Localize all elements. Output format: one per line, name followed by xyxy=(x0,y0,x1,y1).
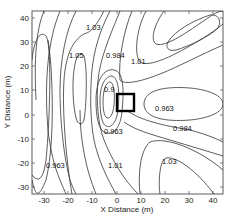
x-tick-label: 10 xyxy=(137,196,146,205)
contour-chart: 1.03 1.05 0.984 1.01 0.9 0.963 0.963 0.9… xyxy=(0,0,235,220)
x-tick-label: 20 xyxy=(161,196,170,205)
x-tick-label: 0 xyxy=(115,196,120,205)
contour-label: 0.9 xyxy=(104,85,114,94)
contour-label: 0.963 xyxy=(104,127,123,136)
contour-label: 0.963 xyxy=(155,104,174,113)
y-tick-label: 30 xyxy=(20,38,29,47)
contour-label: 0.984 xyxy=(106,51,125,60)
y-tick-label: 10 xyxy=(20,86,29,95)
y-tick-label: -20 xyxy=(17,159,29,168)
y-tick-labels: -30 -20 -10 0 10 20 30 40 xyxy=(17,14,29,192)
x-axis-label: X Distance (m) xyxy=(101,205,154,214)
contour-label: 1.03 xyxy=(86,23,101,32)
y-axis-label: Y Distance (m) xyxy=(3,75,12,128)
contour-label: 1.05 xyxy=(69,51,84,60)
y-tick-label: 20 xyxy=(20,62,29,71)
x-tick-label: -10 xyxy=(86,196,98,205)
contour-label: 0.984 xyxy=(173,124,192,133)
contour-label: 0.963 xyxy=(46,161,65,170)
x-tick-label: -20 xyxy=(62,196,74,205)
x-tick-labels: -30 -20 -10 0 10 20 30 40 xyxy=(38,196,218,205)
structure-square xyxy=(117,94,134,111)
y-tick-label: -10 xyxy=(17,135,29,144)
y-tick-label: -30 xyxy=(17,183,29,192)
y-tick-label: 0 xyxy=(25,111,30,120)
contour-label: 1.03 xyxy=(162,157,177,166)
contour-label: 1.01 xyxy=(131,57,146,66)
y-tick-label: 40 xyxy=(20,14,29,23)
contour-label: 1.01 xyxy=(108,161,123,170)
x-tick-label: 30 xyxy=(185,196,194,205)
x-tick-label: -30 xyxy=(38,196,50,205)
x-tick-label: 40 xyxy=(209,196,218,205)
